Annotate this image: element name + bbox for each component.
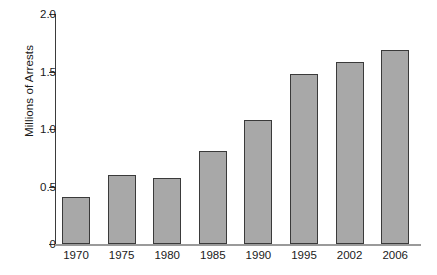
x-axis-line <box>55 244 421 246</box>
bar-chart: Millions of Arrests 00.51.01.52.0 197019… <box>0 0 437 275</box>
x-tick-label-2006: 2006 <box>365 249 425 261</box>
y-tick-label: 2.0 <box>12 8 56 20</box>
bar-1995 <box>290 74 318 244</box>
bar-1970 <box>62 197 90 244</box>
y-tick-label: 0.5 <box>12 181 56 193</box>
bar-2006 <box>381 50 409 244</box>
bar-1980 <box>153 178 181 244</box>
bar-1975 <box>108 175 136 244</box>
bar-2002 <box>336 62 364 244</box>
bar-1985 <box>199 151 227 244</box>
y-tick-label: 1.5 <box>12 66 56 78</box>
bar-1990 <box>244 120 272 244</box>
y-tick-label: 1.0 <box>12 123 56 135</box>
y-axis-title: Millions of Arrests <box>23 11 35 171</box>
